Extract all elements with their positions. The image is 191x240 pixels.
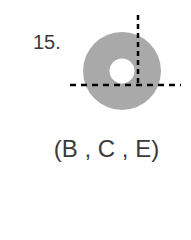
inner-hole <box>110 59 135 84</box>
answer-choices: (B , C , E) <box>0 135 191 163</box>
